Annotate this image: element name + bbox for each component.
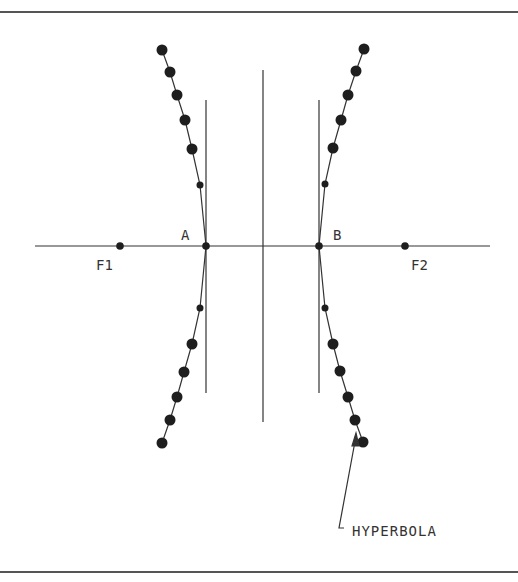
- curve-point: [179, 367, 190, 378]
- curve-point: [336, 115, 347, 126]
- curve-point: [187, 339, 198, 350]
- point-f2: [401, 242, 409, 250]
- curve-point: [322, 305, 329, 312]
- curve-point: [343, 392, 354, 403]
- leader-line: [339, 433, 359, 528]
- label-hyperbola: HYPERBOLA: [352, 523, 437, 539]
- label-f2: F2: [411, 257, 428, 273]
- label-b: B: [333, 227, 341, 243]
- curve-point: [350, 415, 361, 426]
- arrowhead-icon: [352, 433, 359, 446]
- hyperbola-diagram: A B F1 F2 HYPERBOLA: [0, 0, 518, 582]
- curve-point: [197, 305, 204, 312]
- curve-point: [187, 144, 198, 155]
- label-f1: F1: [96, 257, 113, 273]
- curve-point: [359, 44, 370, 55]
- curve-point: [165, 415, 176, 426]
- curve-point: [165, 67, 176, 78]
- curve-point: [322, 181, 329, 188]
- curve-point: [157, 45, 168, 56]
- label-a: A: [181, 227, 190, 243]
- curve-point: [197, 182, 204, 189]
- curve-point: [157, 438, 168, 449]
- curve-point: [172, 392, 183, 403]
- curve-point: [351, 66, 362, 77]
- curve-point: [328, 143, 339, 154]
- curve-point: [180, 115, 191, 126]
- point-b: [315, 242, 323, 250]
- curve-point: [335, 366, 346, 377]
- curve-point: [328, 339, 339, 350]
- curve-point: [172, 90, 183, 101]
- curve-point: [343, 90, 354, 101]
- point-f1: [116, 242, 124, 250]
- point-a: [202, 242, 210, 250]
